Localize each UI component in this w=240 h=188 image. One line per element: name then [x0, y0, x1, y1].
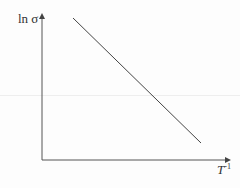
x-axis-label: T-1 [217, 162, 231, 178]
chart-plot [0, 0, 240, 188]
data-line [73, 18, 201, 143]
y-axis-label: ln σ [18, 11, 38, 27]
chart-canvas: ln σ T-1 [0, 0, 240, 188]
